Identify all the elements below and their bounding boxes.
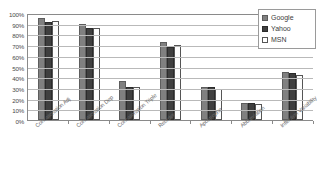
bar-google[interactable] [119, 81, 126, 120]
bar-chart: 100%90%80%70%60%50%40%30%20%10%0% Concat… [0, 0, 320, 182]
bar-google[interactable] [160, 42, 167, 120]
y-axis: 100%90%80%70%60%50%40%30%20%10%0% [0, 8, 26, 126]
legend-swatch-google [262, 15, 268, 21]
x-axis-labels: Concatenation AdjConcatenation DepConcat… [0, 124, 320, 182]
gridline [28, 78, 313, 79]
y-axis-tick-label: 20% [12, 96, 24, 103]
bar-google[interactable] [79, 24, 86, 120]
legend-item-1[interactable]: Yahoo [262, 23, 312, 34]
legend-item-0[interactable]: Google [262, 12, 312, 23]
bar-google[interactable] [38, 18, 45, 120]
legend-label-google: Google [271, 14, 294, 21]
y-axis-tick-label: 70% [12, 43, 24, 50]
y-axis-tick-label: 30% [12, 85, 24, 92]
chart-legend: Google Yahoo MSN [258, 9, 316, 49]
y-axis-tick-label: 10% [12, 107, 24, 114]
legend-label-yahoo: Yahoo [271, 25, 291, 32]
bar-yahoo[interactable] [167, 47, 174, 120]
gridline [28, 68, 313, 69]
y-axis-tick-label: 40% [12, 75, 24, 82]
y-axis-tick-label: 50% [12, 64, 24, 71]
legend-item-2[interactable]: MSN [262, 34, 312, 45]
bar-yahoo[interactable] [86, 28, 93, 120]
legend-swatch-yahoo [262, 26, 268, 32]
y-axis-tick-label: 60% [12, 53, 24, 60]
y-axis-tick-label: 80% [12, 32, 24, 39]
legend-label-msn: MSN [271, 36, 287, 43]
legend-swatch-msn [262, 37, 268, 43]
y-axis-tick-label: 100% [9, 11, 24, 18]
y-axis-tick-label: 90% [12, 21, 24, 28]
gridline [28, 89, 313, 90]
gridline [28, 57, 313, 58]
